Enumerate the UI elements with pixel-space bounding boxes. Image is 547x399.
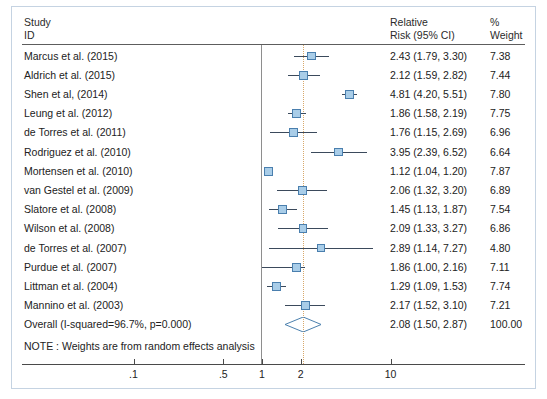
study-row-label: Wilson et al. (2008) xyxy=(24,222,114,234)
study-weight-value: 7.74 xyxy=(490,280,510,292)
axis-tick-label: .5 xyxy=(219,368,228,380)
header-divider-rule xyxy=(22,44,525,45)
study-row-label: Marcus et al. (2015) xyxy=(24,50,117,62)
study-weight-value: 7.21 xyxy=(490,299,510,311)
figure-frame xyxy=(11,6,536,389)
point-estimate-marker xyxy=(301,301,310,310)
axis-baseline xyxy=(22,364,525,365)
study-weight-value: 7.44 xyxy=(490,69,510,81)
note-text: NOTE : Weights are from random effects a… xyxy=(24,340,255,352)
study-row-label: de Torres et al. (2011) xyxy=(24,126,126,138)
study-effect-value: 1.12 (1.04, 1.20) xyxy=(390,165,467,177)
point-estimate-marker xyxy=(289,128,298,137)
column-header-study: Study ID xyxy=(24,16,51,41)
point-estimate-marker xyxy=(272,282,281,291)
study-effect-value: 2.89 (1.14, 7.27) xyxy=(390,242,467,254)
pooled-estimate-diamond xyxy=(285,317,321,332)
study-weight-value: 7.38 xyxy=(490,50,510,62)
study-row-label: Rodriguez et al. (2010) xyxy=(24,146,131,158)
point-estimate-marker xyxy=(278,205,287,214)
point-estimate-marker xyxy=(298,186,307,195)
study-weight-value: 7.80 xyxy=(490,88,510,100)
study-effect-value: 1.76 (1.15, 2.69) xyxy=(390,126,467,138)
study-effect-value: 2.06 (1.32, 3.20) xyxy=(390,184,467,196)
study-weight-value: 6.89 xyxy=(490,184,510,196)
study-effect-value: 2.09 (1.33, 3.27) xyxy=(390,222,467,234)
column-header-wt-line1: % xyxy=(490,16,523,29)
column-header-study-line2: ID xyxy=(24,29,51,42)
study-effect-value: 3.95 (2.39, 6.52) xyxy=(390,146,467,158)
study-weight-value: 7.75 xyxy=(490,107,510,119)
study-effect-value: 1.86 (1.58, 2.19) xyxy=(390,107,467,119)
point-estimate-marker xyxy=(264,167,273,176)
point-estimate-marker xyxy=(334,148,343,157)
column-header-wt-line2: Weight xyxy=(490,29,523,42)
axis-tick-label: 10 xyxy=(385,368,397,380)
study-row-label: Mannino et al. (2003) xyxy=(24,299,123,311)
study-effect-value: 2.43 (1.79, 3.30) xyxy=(390,50,467,62)
point-estimate-marker xyxy=(317,244,325,252)
study-weight-value: 6.86 xyxy=(490,222,510,234)
point-estimate-marker xyxy=(307,52,316,61)
study-row-label: Leung et al. (2012) xyxy=(24,107,112,119)
study-weight-value: 6.96 xyxy=(490,126,510,138)
point-estimate-marker xyxy=(345,90,354,99)
study-effect-value: 1.45 (1.13, 1.87) xyxy=(390,203,467,215)
null-effect-line xyxy=(261,45,262,364)
column-header-rr-line2: Risk (95% CI) xyxy=(390,29,455,42)
overall-weight-value: 100.00 xyxy=(490,318,522,330)
column-header-weight: % Weight xyxy=(490,16,523,41)
study-effect-value: 1.86 (1.00, 2.16) xyxy=(390,261,467,273)
study-weight-value: 7.11 xyxy=(490,261,510,273)
overall-row-label: Overall (I-squared=96.7%, p=0.000) xyxy=(24,318,192,330)
point-estimate-marker xyxy=(292,263,301,272)
study-effect-value: 2.17 (1.52, 3.10) xyxy=(390,299,467,311)
overall-effect-value: 2.08 (1.50, 2.87) xyxy=(390,318,467,330)
study-row-label: Purdue et al. (2007) xyxy=(24,261,117,273)
study-row-label: de Torres et al. (2007) xyxy=(24,242,127,254)
study-row-label: Mortensen et al. (2010) xyxy=(24,165,133,177)
column-header-relative-risk: Relative Risk (95% CI) xyxy=(390,16,455,41)
study-weight-value: 7.87 xyxy=(490,165,510,177)
study-effect-value: 2.12 (1.59, 2.82) xyxy=(390,69,467,81)
study-weight-value: 4.80 xyxy=(490,242,510,254)
point-estimate-marker xyxy=(299,224,308,233)
axis-tick-label: .1 xyxy=(129,368,138,380)
forest-plot-figure: Study ID Relative Risk (95% CI) % Weight… xyxy=(0,0,547,399)
study-effect-value: 4.81 (4.20, 5.51) xyxy=(390,88,467,100)
study-effect-value: 1.29 (1.09, 1.53) xyxy=(390,280,467,292)
axis-tick-label: 1 xyxy=(259,368,265,380)
column-header-rr-line1: Relative xyxy=(390,16,455,29)
study-row-label: van Gestel et al. (2009) xyxy=(24,184,133,196)
study-row-label: Shen et al, (2014) xyxy=(24,88,107,100)
point-estimate-marker xyxy=(292,109,301,118)
column-header-study-line1: Study xyxy=(24,16,51,29)
study-weight-value: 6.64 xyxy=(490,146,510,158)
study-row-label: Aldrich et al. (2015) xyxy=(24,69,115,81)
axis-tick-label: 2 xyxy=(298,368,304,380)
study-row-label: Slatore et al. (2008) xyxy=(24,203,116,215)
point-estimate-marker xyxy=(299,71,308,80)
study-row-label: Littman et al. (2004) xyxy=(24,280,117,292)
study-weight-value: 7.54 xyxy=(490,203,510,215)
